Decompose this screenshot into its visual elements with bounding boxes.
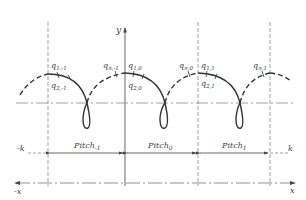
neg-k-label: -k bbox=[17, 144, 25, 153]
label-q2-0: q2,0 bbox=[128, 81, 142, 91]
helix-curve bbox=[20, 73, 292, 128]
point-ticks bbox=[57, 71, 264, 80]
label-q1-0: q1,0 bbox=[128, 61, 142, 71]
label-q2-1: q2,1 bbox=[201, 79, 215, 89]
neg-x-arrow-icon bbox=[14, 181, 20, 185]
helix-pitch-diagram: y -x x -k k Pitch-1 Pitch0 Pitch1 bbox=[0, 0, 306, 200]
x-label: x bbox=[290, 186, 295, 195]
y-axis-label: y bbox=[115, 25, 122, 35]
label-qn-minus1: qn,-1 bbox=[103, 61, 119, 71]
vertical-reference-lines bbox=[48, 22, 270, 186]
k-label: k bbox=[288, 144, 293, 153]
pitch-0-label: Pitch0 bbox=[147, 141, 173, 151]
pitch-minus1-label: Pitch-1 bbox=[73, 141, 101, 151]
label-q1-minus1: q1,-1 bbox=[51, 61, 67, 71]
label-q1-1: q1,1 bbox=[201, 61, 215, 71]
label-q2-minus1: q2,-1 bbox=[51, 81, 67, 91]
point-labels: q1,-1 q2,-1 qn,-1 q1,0 q2,0 qn,0 q1,1 q2… bbox=[51, 61, 267, 91]
x-arrow-icon bbox=[290, 181, 296, 185]
pitch-1-label: Pitch1 bbox=[221, 141, 247, 151]
label-qn-1: qn,1 bbox=[253, 61, 267, 71]
neg-x-label: -x bbox=[14, 187, 22, 196]
label-qn-0: qn,0 bbox=[179, 61, 193, 71]
